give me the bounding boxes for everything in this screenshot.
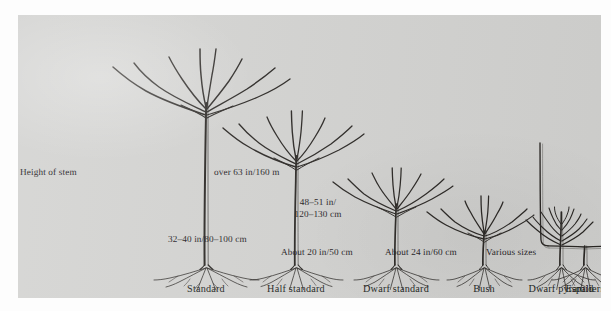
caption-half-standard: Half standard — [267, 283, 325, 294]
measure-standard: over 63 in/160 m — [214, 167, 279, 179]
tree-dwarf-standard — [333, 168, 453, 290]
tree-espaliers — [540, 143, 601, 290]
height-of-stem-label: Height of stem — [20, 167, 77, 179]
caption-espaliers: Espaliers — [565, 283, 601, 294]
measure-half-standard-line1: 48–51 in/ — [300, 197, 336, 209]
caption-dwarf-standard: Dwarf standard — [363, 283, 429, 294]
tree-half-standard — [223, 111, 364, 290]
measure-half-standard-line2: 120–130 cm — [294, 209, 341, 221]
illustration-plate: .br { fill:none; stroke:#2a2724; stroke-… — [18, 15, 601, 298]
measure-dwarf-pyramid: About 24 in/60 cm — [385, 247, 457, 259]
caption-standard: Standard — [187, 283, 225, 294]
figure-root: .br { fill:none; stroke:#2a2724; stroke-… — [0, 0, 611, 311]
tree-bush — [427, 196, 534, 290]
measure-espaliers: Various sizes — [486, 247, 536, 259]
measure-dwarf-standard: 32–40 in/80–100 cm — [168, 234, 247, 246]
measure-bush: About 20 in/50 cm — [281, 247, 353, 259]
caption-bush: Bush — [473, 283, 495, 294]
